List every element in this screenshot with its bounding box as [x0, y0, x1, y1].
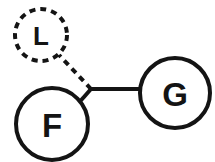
node-G-label: G [162, 76, 188, 113]
node-layer: L F G [15, 9, 210, 160]
node-G[interactable]: G [140, 58, 210, 128]
diagram-canvas: L F G [0, 0, 215, 162]
node-L[interactable]: L [15, 9, 67, 61]
node-L-label: L [33, 21, 49, 51]
edge-junction-to-L[interactable] [59, 55, 91, 89]
node-F-label: F [42, 107, 62, 144]
node-link-graph: L F G [0, 0, 215, 162]
node-F[interactable]: F [16, 88, 88, 160]
